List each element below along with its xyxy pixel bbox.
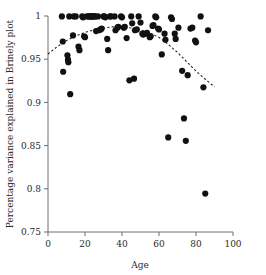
data-point (162, 37, 168, 43)
data-point (112, 13, 118, 19)
data-point (156, 26, 162, 32)
x-tick-label: 100 (224, 239, 241, 249)
data-point (183, 138, 189, 144)
y-tick-label: 0.9 (27, 98, 42, 108)
data-point (148, 33, 154, 39)
y-tick-label: 0.8 (27, 184, 42, 194)
data-point (73, 13, 79, 19)
data-point (70, 32, 76, 38)
data-point (165, 134, 171, 140)
data-point (136, 13, 142, 19)
data-point (59, 13, 65, 19)
x-tick-label: 60 (153, 239, 165, 249)
data-point (105, 47, 111, 53)
x-axis-ticks: 020406080100 (45, 232, 242, 249)
data-point (119, 14, 125, 20)
data-point (202, 190, 208, 196)
data-point (200, 84, 206, 90)
data-point (189, 25, 195, 31)
x-tick-label: 80 (190, 239, 202, 249)
data-point (115, 24, 121, 30)
data-point (137, 19, 143, 25)
data-point (205, 27, 211, 33)
x-tick-label: 20 (79, 239, 91, 249)
y-axis-title: Percentage variance explained in Brinely… (5, 19, 15, 228)
data-point (198, 13, 204, 19)
x-axis-title: Age (130, 260, 149, 270)
x-tick-label: 0 (45, 239, 51, 249)
chart-svg: 0.750.80.850.90.951 020406080100 Age Per… (0, 0, 266, 275)
axes-group (48, 16, 233, 232)
data-point (124, 35, 130, 41)
y-tick-label: 0.85 (21, 141, 41, 151)
scatter-chart: 0.750.80.850.90.951 020406080100 Age Per… (0, 0, 266, 275)
data-point (172, 31, 178, 37)
data-point (104, 36, 110, 42)
data-points-group (59, 13, 211, 196)
data-point (129, 20, 135, 26)
data-point (67, 91, 73, 97)
data-point (60, 38, 66, 44)
data-point (159, 51, 165, 57)
data-point (95, 13, 101, 19)
data-point (65, 59, 71, 65)
data-point (60, 69, 66, 75)
data-point (181, 115, 187, 121)
data-point (169, 16, 175, 22)
data-point (193, 39, 199, 45)
data-point (76, 47, 82, 53)
data-point (134, 26, 140, 32)
data-point (82, 34, 88, 40)
y-tick-label: 0.95 (21, 54, 41, 64)
data-point (153, 14, 159, 20)
x-tick-label: 40 (116, 239, 128, 249)
data-point (179, 68, 185, 74)
y-tick-label: 0.75 (21, 227, 41, 237)
data-point (173, 36, 179, 42)
y-tick-label: 1 (35, 11, 41, 21)
data-point (175, 25, 181, 31)
data-point (99, 25, 105, 31)
data-point (185, 72, 191, 78)
data-point (131, 76, 137, 82)
data-point (122, 24, 128, 30)
y-axis-ticks: 0.750.80.850.90.951 (21, 11, 48, 237)
data-point (128, 13, 134, 19)
data-point (161, 31, 167, 37)
